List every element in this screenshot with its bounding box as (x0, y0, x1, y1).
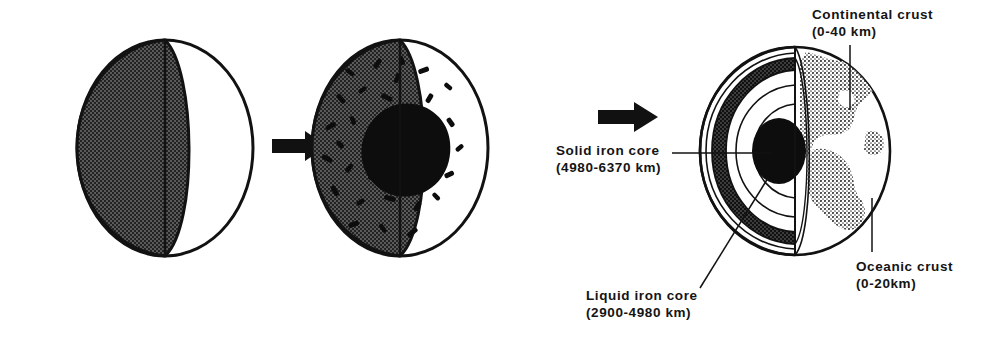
label-liquid-iron-core-line2: (2900-4980 km) (586, 304, 698, 321)
label-solid-iron-core: Solid iron core (4980-6370 km) (556, 142, 661, 176)
label-liquid-iron-core-line1: Liquid iron core (586, 288, 698, 303)
earth-differentiation-diagram (0, 0, 997, 344)
label-continental-crust-line2: (0-40 km) (812, 23, 933, 40)
solid-inner-core (752, 118, 806, 184)
stage-3-sphere (700, 47, 890, 255)
label-oceanic-crust: Oceanic crust (0-20km) (856, 258, 953, 292)
label-continental-crust: Continental crust (0-40 km) (812, 6, 933, 40)
stage-arrow-2 (598, 102, 658, 132)
label-oceanic-crust-line2: (0-20km) (856, 275, 953, 292)
stage-1-sphere (77, 40, 253, 256)
label-liquid-iron-core: Liquid iron core (2900-4980 km) (586, 287, 698, 321)
label-solid-iron-core-line1: Solid iron core (556, 143, 660, 158)
label-oceanic-crust-line1: Oceanic crust (856, 259, 953, 274)
label-solid-iron-core-line2: (4980-6370 km) (556, 159, 661, 176)
stage-1-interior (77, 40, 189, 256)
figure-canvas: Solid iron core (4980-6370 km) Liquid ir… (0, 0, 997, 344)
stage-2-sphere (312, 40, 488, 256)
label-continental-crust-line1: Continental crust (812, 7, 933, 22)
